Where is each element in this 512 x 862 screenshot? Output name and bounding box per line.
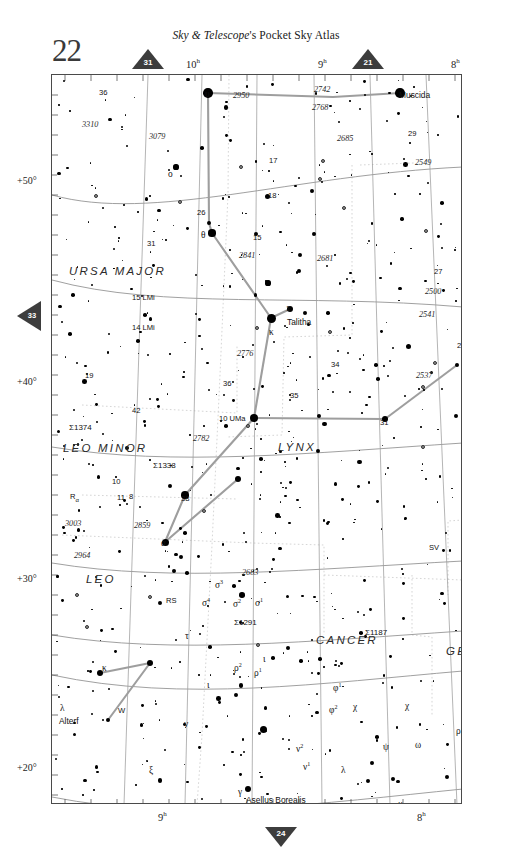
star-field-point bbox=[102, 207, 104, 209]
star-field-point bbox=[208, 389, 210, 391]
double-star-label-sigma1374: Σ1374 bbox=[69, 424, 92, 432]
star-field-point bbox=[183, 371, 185, 373]
greek-star-label-11: λ bbox=[60, 704, 65, 713]
star-field-point bbox=[93, 789, 95, 791]
star-field-point bbox=[252, 344, 254, 346]
star-field-point bbox=[69, 110, 71, 112]
greek-star-label-14: ρ1 bbox=[254, 667, 262, 679]
star-field-point bbox=[71, 293, 75, 297]
ngc-label-2841: 2841 bbox=[239, 252, 255, 260]
ngc-label-2742: 2742 bbox=[314, 86, 330, 94]
star-field-point bbox=[94, 394, 96, 396]
star-field-point bbox=[283, 372, 285, 374]
star-field-point bbox=[96, 421, 98, 423]
constellation-label-lynx: LYNX bbox=[278, 442, 316, 454]
nav-chart-33[interactable]: 33 bbox=[16, 300, 42, 332]
star-bright bbox=[406, 344, 411, 349]
flamsteed-label-27: 27 bbox=[434, 268, 442, 276]
star-field-point bbox=[209, 581, 211, 583]
flamsteed-label-36: 36 bbox=[99, 89, 107, 97]
star-field-point bbox=[201, 798, 203, 800]
greek-star-label-16: ν bbox=[184, 720, 188, 729]
ra-label-bottom-9h: 9h bbox=[158, 810, 167, 823]
star-field-point bbox=[92, 464, 94, 466]
greek-star-label-22: ψ bbox=[383, 743, 389, 752]
star-field-point bbox=[135, 784, 137, 786]
star-field-point bbox=[442, 289, 445, 292]
ngc-label-2681: 2681 bbox=[317, 255, 333, 263]
star-field-point bbox=[349, 337, 351, 339]
star-field-point bbox=[363, 354, 365, 356]
star-field-point bbox=[92, 690, 94, 692]
star-field-point bbox=[123, 204, 125, 206]
star-field-point bbox=[146, 760, 148, 762]
nav-chart-21[interactable]: 21 bbox=[351, 48, 385, 70]
star-field-point bbox=[67, 686, 69, 688]
star-field-point bbox=[232, 381, 234, 383]
star-field-point bbox=[425, 478, 427, 480]
star-field-point bbox=[186, 78, 190, 82]
star-field-point bbox=[273, 180, 275, 182]
star-field-point bbox=[440, 223, 442, 225]
star-field-point bbox=[398, 300, 400, 302]
star-field-point bbox=[149, 459, 151, 461]
star-field-point bbox=[385, 473, 387, 475]
greek-star-label-31: ρ bbox=[456, 727, 461, 736]
star-field-point bbox=[413, 86, 415, 88]
star-field-point bbox=[125, 114, 127, 116]
nav-chart-31-label: 31 bbox=[131, 58, 165, 67]
ngc-label-2537: 2537 bbox=[416, 372, 432, 380]
star-field-point bbox=[198, 318, 201, 321]
star-field-point bbox=[63, 80, 65, 82]
star-field-point bbox=[159, 719, 161, 721]
star-field-point bbox=[242, 457, 244, 459]
star-field-point bbox=[294, 185, 296, 187]
greek-star-label-33: ι bbox=[207, 681, 210, 690]
star-field-point bbox=[279, 516, 281, 518]
star-field-point bbox=[75, 536, 78, 539]
greek-star-label-7: σ2 bbox=[233, 598, 241, 610]
star-field-point bbox=[113, 248, 115, 250]
star-chart[interactable]: URSA MAJORLEO MINORLYNXLEOCANCERGEMINIMu… bbox=[51, 74, 462, 804]
greek-star-label-8: σ1 bbox=[255, 597, 263, 609]
star-bright bbox=[326, 311, 329, 314]
star-field-point bbox=[224, 601, 226, 603]
star-field-point bbox=[374, 363, 378, 367]
star-field-point bbox=[165, 239, 167, 241]
star-field-point bbox=[380, 330, 383, 333]
star-field-point bbox=[361, 412, 363, 414]
star-field-point bbox=[111, 413, 113, 415]
star-field-point bbox=[243, 751, 245, 753]
star-field-point bbox=[242, 212, 244, 214]
star-field-point bbox=[216, 696, 221, 701]
star-field-point bbox=[240, 754, 242, 756]
flamsteed-label-38: 38 bbox=[181, 495, 189, 503]
star-field-point bbox=[418, 388, 420, 390]
ra-label-top-8h: 8h bbox=[451, 57, 460, 70]
star-field-point bbox=[145, 197, 149, 201]
star-field-point bbox=[261, 385, 264, 388]
dec-label-plus20: +20° bbox=[17, 762, 37, 773]
star-field-point bbox=[91, 284, 93, 286]
flamsteed-label-11: 11 bbox=[117, 494, 125, 502]
ngc-label-2859: 2859 bbox=[134, 522, 150, 530]
star-field-point bbox=[82, 794, 84, 796]
star-field-point bbox=[87, 670, 89, 672]
star-field-point bbox=[334, 482, 338, 486]
greek-star-label-9: τ bbox=[185, 632, 189, 641]
star-field-point bbox=[228, 196, 230, 198]
star-field-point bbox=[229, 139, 232, 142]
star-field-point bbox=[171, 581, 173, 583]
star-field-point bbox=[155, 703, 157, 705]
star-field-point bbox=[336, 92, 338, 94]
star-field-point bbox=[141, 704, 144, 707]
star-bright bbox=[173, 164, 178, 169]
flamsteed-label-15-LMi: 15 LMi bbox=[132, 294, 155, 302]
dec-label-plus30: +30° bbox=[17, 573, 37, 584]
star-field-point bbox=[376, 244, 378, 246]
ra-label-top-10h: 10h bbox=[186, 57, 200, 70]
nav-chart-24[interactable]: 24 bbox=[264, 826, 298, 848]
ngc-label-2685: 2685 bbox=[337, 135, 353, 143]
star-field-point bbox=[392, 347, 394, 349]
nav-chart-31[interactable]: 31 bbox=[131, 48, 165, 70]
